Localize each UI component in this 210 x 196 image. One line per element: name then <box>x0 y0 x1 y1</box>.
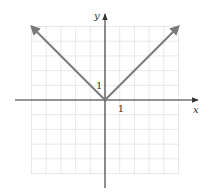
y-axis-label: y <box>93 10 100 21</box>
x-axis-label: x <box>193 104 199 115</box>
axes <box>15 14 198 188</box>
y-tick-label-1: 1 <box>96 80 102 91</box>
x-tick-label-1: 1 <box>118 103 124 114</box>
absolute-value-graph: x y 1 1 <box>0 0 210 196</box>
left-branch-line <box>32 27 106 101</box>
right-branch-line <box>105 27 179 101</box>
